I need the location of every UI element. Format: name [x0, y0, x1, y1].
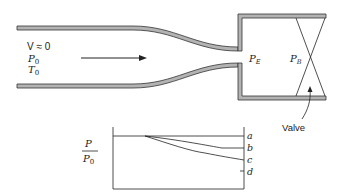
exit-pressure-label: PE — [248, 53, 261, 66]
curve-label-c: c — [247, 154, 253, 165]
curve-label-b: b — [247, 142, 253, 153]
flow-arrow-icon — [81, 55, 147, 61]
valve-pointer-arrow-icon — [302, 86, 313, 119]
chamber-upper-wall — [238, 14, 326, 51]
plot-ylabel: P P0 — [82, 138, 98, 166]
valve-label: Valve — [282, 122, 305, 133]
svg-text:P0: P0 — [82, 153, 94, 166]
curve-b — [145, 136, 244, 148]
nozzle-lower-wall — [17, 63, 238, 88]
curve-label-a: a — [247, 130, 253, 141]
valve-icon — [296, 18, 325, 96]
svg-text:P: P — [84, 138, 92, 149]
velocity-label: V ≈ 0 — [27, 41, 51, 52]
chamber-lower-wall — [238, 63, 326, 100]
back-pressure-label: PB — [289, 53, 302, 66]
pressure-plot — [113, 127, 244, 189]
curve-label-d: d — [247, 166, 253, 177]
nozzle-diagram: V ≈ 0 P0 T0 PE PB Valve P P0 a b c d — [0, 0, 341, 196]
